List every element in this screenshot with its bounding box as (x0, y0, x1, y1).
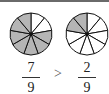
left-fraction: 7 9 (19, 60, 43, 94)
top-border (0, 0, 109, 2)
right-numerator: 2 (75, 60, 99, 75)
right-fraction: 2 9 (75, 60, 99, 94)
right-fraction-bar (78, 77, 96, 78)
left-fraction-circle (8, 11, 54, 57)
left-fraction-bar (22, 77, 40, 78)
comparison-sign: > (52, 66, 64, 82)
center-dot (29, 32, 33, 36)
left-numerator: 7 (19, 60, 43, 75)
right-fraction-circle (64, 11, 109, 57)
fraction-comparison-diagram: 7 9 > 2 9 (0, 0, 109, 94)
right-denominator: 9 (75, 80, 99, 94)
left-denominator: 9 (19, 80, 43, 94)
center-dot (85, 32, 89, 36)
